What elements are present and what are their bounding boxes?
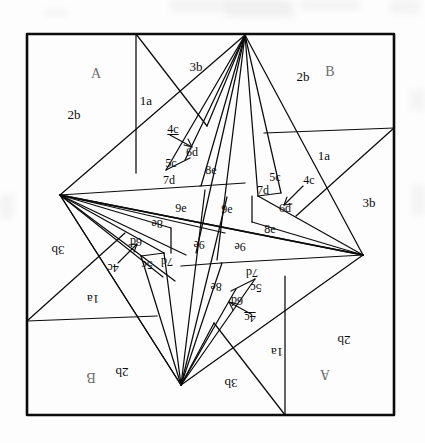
region-label-B-top: B — [325, 65, 334, 79]
spine-top-5c — [166, 35, 245, 170]
region-label-6d-right: 6d — [279, 202, 291, 214]
region-label-4c-left-rot: 4c — [107, 262, 118, 274]
region-label-4c-right: 4c — [303, 174, 314, 186]
region-label-7d-lower-rot: 7d — [246, 267, 258, 279]
edge-2b-1a-left — [27, 316, 157, 321]
region-label-A-bottom: A — [320, 367, 330, 381]
region-label-8e-lower-rot: 8e — [210, 281, 221, 293]
region-label-8e-right: 8e — [264, 223, 275, 235]
region-label-2b-bottomleft: 2b — [116, 366, 129, 379]
region-label-1a-left-rot: 1a — [87, 293, 99, 306]
edge-1a-3b-right — [296, 128, 394, 216]
region-label-1a-topleft: 1a — [140, 94, 152, 107]
edge-1a-3b-left — [27, 233, 125, 321]
region-label-7d-upper: 7d — [163, 174, 175, 186]
chord-center-9e — [60, 195, 363, 255]
region-label-2b-bottomright: 2b — [338, 334, 351, 347]
region-label-3b-bottom: 3b — [225, 377, 238, 390]
edge-8e-lower — [181, 263, 221, 266]
edge-2b-1a-right — [264, 128, 394, 133]
region-label-4c-lower-rot: 4c — [244, 312, 255, 324]
region-label-7d-right: 7d — [257, 184, 269, 196]
region-label-A-top: A — [91, 67, 101, 81]
region-label-9e-lowerleft: 9e — [193, 239, 204, 251]
dissection-figure — [0, 0, 425, 443]
spine-top-right-7d — [245, 35, 258, 196]
region-label-6d-upper: 6d — [186, 146, 198, 158]
spine-top-left-outer — [60, 35, 245, 195]
region-label-7d-left-rot: 7d — [161, 256, 173, 268]
region-label-5c-lower-rot: 5c — [250, 282, 261, 294]
spine-bottom-left-7d — [164, 253, 181, 385]
spine-top-6d — [185, 35, 245, 160]
region-label-3b-top: 3b — [190, 60, 203, 73]
region-label-5c-left-rot: 5c — [141, 259, 152, 271]
spine-top-9e-left — [196, 35, 245, 253]
edge-8e-upper — [200, 183, 245, 186]
diagram-page: AB2b1a3b2b1a3b4c6d5c7d8e9e9e5c4c7d6d8e8e… — [0, 0, 425, 443]
region-label-4c-upper: 4c — [167, 123, 178, 135]
region-label-6d-lower-rot: 6d — [231, 295, 243, 307]
region-label-8e-left-rot: 8e — [151, 218, 162, 230]
region-label-3b-right: 3b — [363, 196, 376, 209]
edge-1a-3b-upper — [136, 34, 207, 126]
region-label-9e-uppermid: 9e — [221, 203, 232, 215]
region-label-9e-lowermid: 9e — [234, 241, 245, 253]
edge-7d-band-lower — [221, 255, 363, 263]
region-label-8e-upper: 8e — [205, 164, 216, 176]
region-label-6d-left-rot: 6d — [130, 236, 142, 248]
region-label-9e-upperleft: 9e — [175, 202, 186, 214]
region-label-5c-right: 5c — [269, 171, 280, 183]
region-label-1a-right: 1a — [318, 149, 330, 162]
edge-7d-band-upper — [60, 186, 200, 195]
region-label-2b-topright: 2b — [297, 70, 310, 83]
region-label-2b-topleft: 2b — [68, 108, 81, 121]
region-label-3b-left-rot: 3b — [52, 244, 65, 257]
region-label-B-bottom: B — [86, 370, 95, 384]
region-label-5c-upper: 5c — [165, 157, 176, 169]
region-label-1a-bottom: 1a — [271, 346, 283, 359]
